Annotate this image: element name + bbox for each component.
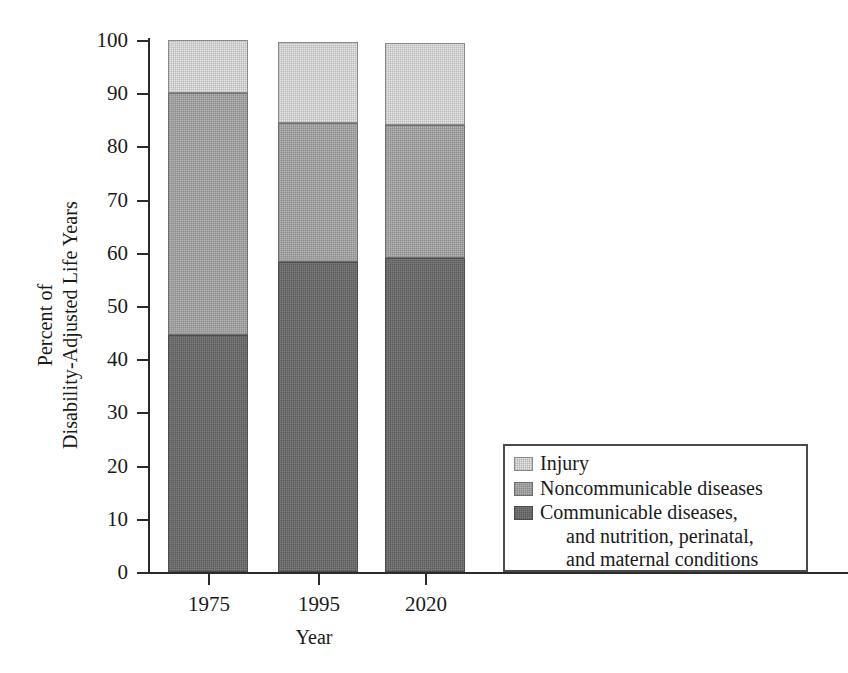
y-tick-label-40: 40 (107, 347, 128, 372)
x-tick-1975 (208, 574, 210, 585)
bar-2020-segment-noncommunicable[interactable] (385, 125, 465, 258)
x-axis-title: Year (148, 626, 480, 649)
y-axis-line (148, 38, 150, 574)
y-tick-100: 100 (137, 40, 148, 42)
y-tick-0: 0 (137, 572, 148, 574)
bar-2020-segment-communicable[interactable] (385, 258, 465, 572)
y-tick-80: 80 (137, 146, 148, 148)
y-tick-90: 90 (137, 93, 148, 95)
y-tick-label-100: 100 (97, 28, 129, 53)
y-tick-label-10: 10 (107, 507, 128, 532)
y-tick-60: 60 (137, 253, 148, 255)
legend-label-communicable-block: Communicable diseases, and nutrition, pe… (540, 501, 758, 572)
y-tick-label-90: 90 (107, 81, 128, 106)
bar-2020-segment-injury[interactable] (385, 43, 465, 125)
communicable-swatch-icon (514, 506, 533, 520)
bar-2020[interactable] (385, 40, 465, 572)
legend-label-communicable-line3: and maternal conditions (540, 548, 758, 572)
y-tick-70: 70 (137, 200, 148, 202)
bar-1975-segment-noncommunicable[interactable] (168, 93, 248, 335)
y-axis-title: Percent of Disability-Adjusted Life Year… (33, 125, 83, 525)
bar-1995-segment-noncommunicable[interactable] (278, 123, 358, 263)
bar-1995[interactable] (278, 40, 358, 572)
y-axis-title-line1: Percent of (33, 125, 58, 525)
legend-label-communicable-line1: Communicable diseases, (540, 501, 738, 523)
y-tick-50: 50 (137, 306, 148, 308)
y-tick-label-60: 60 (107, 241, 128, 266)
noncommunicable-swatch-icon (514, 482, 533, 496)
y-tick-40: 40 (137, 359, 148, 361)
legend-item-injury[interactable]: Injury (514, 452, 800, 476)
x-tick-label-1975: 1975 (164, 592, 254, 617)
y-tick-label-0: 0 (118, 560, 129, 585)
legend-label-injury: Injury (540, 452, 589, 476)
y-axis-title-line2: Disability-Adjusted Life Years (58, 125, 83, 525)
legend: Injury Noncommunicable diseases Communic… (503, 444, 808, 572)
legend-label-communicable-line2: and nutrition, perinatal, (540, 525, 758, 549)
x-axis-line (148, 572, 848, 574)
y-tick-label-50: 50 (107, 294, 128, 319)
x-tick-2020 (425, 574, 427, 585)
y-tick-20: 20 (137, 466, 148, 468)
legend-item-noncommunicable[interactable]: Noncommunicable diseases (514, 477, 800, 501)
injury-swatch-icon (514, 457, 533, 471)
bar-1995-segment-communicable[interactable] (278, 262, 358, 572)
y-tick-label-80: 80 (107, 134, 128, 159)
legend-item-communicable[interactable]: Communicable diseases, and nutrition, pe… (514, 501, 800, 572)
bar-1975[interactable] (168, 40, 248, 572)
y-tick-label-70: 70 (107, 188, 128, 213)
bar-1995-segment-injury[interactable] (278, 42, 358, 123)
x-tick-label-1995: 1995 (274, 592, 364, 617)
y-tick-10: 10 (137, 519, 148, 521)
y-tick-label-30: 30 (107, 400, 128, 425)
y-tick-30: 30 (137, 412, 148, 414)
plot-area: 100 90 80 70 60 50 40 30 20 10 0 (148, 40, 480, 572)
x-tick-1995 (318, 574, 320, 585)
y-tick-label-20: 20 (107, 454, 128, 479)
bar-1975-segment-injury[interactable] (168, 40, 248, 93)
x-tick-label-2020: 2020 (381, 592, 471, 617)
legend-label-noncommunicable: Noncommunicable diseases (540, 477, 763, 501)
bar-1975-segment-communicable[interactable] (168, 335, 248, 572)
